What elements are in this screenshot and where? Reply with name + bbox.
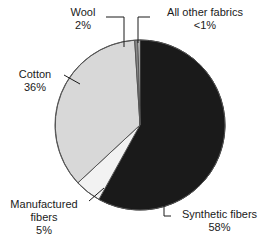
slice-label-cotton-name: Cotton: [6, 68, 64, 81]
slice-label-cotton: Cotton 36%: [6, 68, 64, 94]
slice-label-wool-value: 2%: [59, 19, 107, 32]
slice-label-all-other-fabrics-value: <1%: [150, 19, 260, 32]
slice-label-manufactured-fibers-name2: fibers: [1, 211, 87, 224]
slice-label-all-other-fabrics-name: All other fabrics: [150, 6, 260, 19]
slice-label-wool-name: Wool: [59, 6, 107, 19]
slice-label-synthetic-fibers-value: 58%: [172, 221, 267, 234]
slice-label-manufactured-fibers-name: Manufactured: [1, 198, 87, 211]
pie-chart-figure: Wool 2% All other fabrics <1% Cotton 36%…: [0, 0, 267, 251]
slice-label-cotton-value: 36%: [6, 81, 64, 94]
slice-label-wool: Wool 2%: [59, 6, 107, 32]
slice-label-all-other-fabrics: All other fabrics <1%: [150, 6, 260, 32]
leader-line-all-other-fabrics: [138, 17, 150, 43]
slice-label-synthetic-fibers: Synthetic fibers 58%: [172, 208, 267, 234]
slice-label-manufactured-fibers-value: 5%: [1, 224, 87, 237]
slice-label-manufactured-fibers: Manufactured fibers 5%: [1, 198, 87, 237]
slice-label-synthetic-fibers-name: Synthetic fibers: [172, 208, 267, 221]
